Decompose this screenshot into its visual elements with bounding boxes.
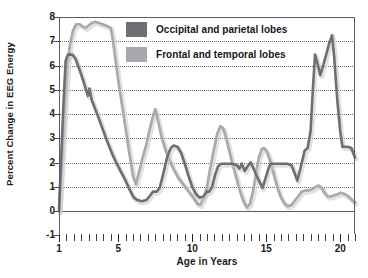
x-tick-minor [311,234,312,241]
y-tick-label: 7 [35,36,55,46]
x-tick-minor [355,234,356,241]
x-tick-minor [333,234,334,241]
x-tick-major [266,234,267,242]
x-tick-minor [163,234,164,241]
x-tick-label: 1 [44,243,74,254]
x-tick-major [192,234,193,242]
x-tick-minor [111,234,112,241]
x-tick-minor [133,234,134,241]
x-tick-minor [148,234,149,241]
y-tick-label: 2 [35,158,55,168]
x-tick-minor [214,234,215,241]
x-axis-ticks [59,234,355,243]
x-tick-minor [200,234,201,241]
x-tick-minor [229,234,230,241]
x-tick-minor [155,234,156,241]
x-tick-minor [288,234,289,241]
x-tick-minor [81,234,82,241]
x-tick-minor [96,234,97,241]
x-tick-minor [281,234,282,241]
x-tick-minor [318,234,319,241]
y-tick-label: 1 [35,182,55,192]
x-tick-minor [66,234,67,241]
x-tick-minor [244,234,245,241]
y-axis-ticks: 876543210-1 [31,0,55,278]
x-tick-minor [348,234,349,241]
x-tick-major [340,234,341,242]
legend-swatch-icon [126,22,147,37]
y-tick-label: 4 [35,109,55,119]
x-axis-tick-labels: 15101520 [59,243,355,256]
legend-item: Frontal and temporal lobes [126,43,287,65]
x-tick-minor [89,234,90,241]
x-tick-minor [251,234,252,241]
x-tick-minor [274,234,275,241]
y-tick-label: 3 [35,133,55,143]
legend-swatch-icon [126,47,147,62]
y-tick-label: 0 [35,206,55,216]
x-tick-minor [185,234,186,241]
x-tick-label: 20 [325,243,355,254]
y-tick-label: 6 [35,61,55,71]
x-tick-label: 15 [251,243,281,254]
x-tick-minor [296,234,297,241]
x-tick-minor [126,234,127,241]
x-tick-minor [303,234,304,241]
y-axis-title: Percent Change in EEG Energy [2,9,18,219]
x-tick-major [118,234,119,242]
eeg-energy-line-chart: Percent Change in EEG Energy 876543210-1… [0,0,368,278]
y-tick-mark [53,235,59,236]
x-tick-minor [207,234,208,241]
y-tick-label: 8 [35,12,55,22]
legend-label: Occipital and parietal lobes [156,24,287,35]
legend-label: Frontal and temporal lobes [156,49,286,60]
x-tick-minor [237,234,238,241]
x-tick-minor [325,234,326,241]
y-tick-label: 5 [35,85,55,95]
chart-legend: Occipital and parietal lobesFrontal and … [126,18,287,68]
x-tick-minor [170,234,171,241]
x-tick-minor [103,234,104,241]
legend-item: Occipital and parietal lobes [126,18,287,40]
x-tick-label: 5 [103,243,133,254]
x-tick-label: 10 [177,243,207,254]
x-tick-minor [177,234,178,241]
x-tick-minor [222,234,223,241]
x-tick-minor [259,234,260,241]
x-tick-minor [140,234,141,241]
x-tick-minor [74,234,75,241]
y-axis-spine [59,17,60,235]
x-axis-title: Age in Years [59,256,355,267]
y-tick-label: -1 [35,230,55,240]
